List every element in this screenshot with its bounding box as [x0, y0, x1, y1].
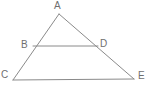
segment-group [13, 14, 134, 80]
vertex-label-a: A [54, 1, 61, 11]
geometry-figure: A B D C E [0, 0, 150, 93]
segment-ce [13, 79, 134, 80]
vertex-label-b: B [21, 40, 28, 50]
segment-ac [13, 14, 59, 80]
vertex-label-e: E [138, 71, 145, 81]
vertex-label-c: C [1, 70, 8, 80]
vertex-label-d: D [100, 39, 107, 49]
